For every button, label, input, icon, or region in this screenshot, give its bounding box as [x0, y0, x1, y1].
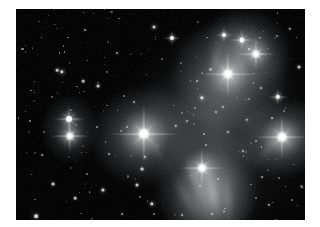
astrophoto-image: [16, 9, 305, 220]
screenshot-root: Pleiades star cluster (M45): [0, 0, 320, 227]
night-sky-background: [16, 9, 305, 220]
